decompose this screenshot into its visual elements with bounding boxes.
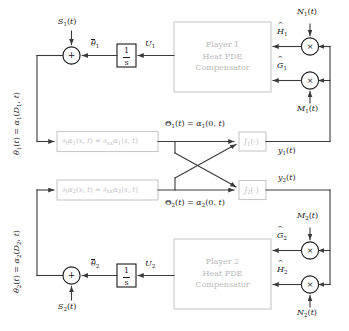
- player2-pde-box-equation: ∂tα2(x, t) = ∂xxα2(x, t): [62, 187, 138, 194]
- player1-pde-equals: =: [95, 137, 103, 145]
- player2-hessian-modulation-label: N2(t): [297, 309, 317, 317]
- player1-integrator-block: 1 s: [117, 47, 136, 67]
- player1-gradient-estimate-label: G1: [277, 62, 287, 70]
- player1-dither-label: S1(t): [58, 18, 76, 26]
- player2-control-label: U2: [145, 260, 155, 268]
- player1-control-label: U1: [145, 40, 155, 48]
- player1-pde-lhs: ∂tα1(x, t): [62, 137, 95, 145]
- player1-box-line2: Heat PDE: [174, 51, 271, 63]
- player1-pde-box-equation: ∂tα1(x, t) = ∂xxα1(x, t): [62, 138, 138, 145]
- player2-hessian-multiplier-symbol: ×: [303, 281, 317, 289]
- player2-pde-rhs: ∂xxα2(x, t): [103, 186, 138, 194]
- player2-box-line3: Compensator: [174, 279, 271, 291]
- player2-dither-label: S2(t): [58, 303, 76, 311]
- player1-sum-junction-sign: +: [64, 51, 79, 60]
- player2-box-line1: Player 2: [174, 256, 271, 268]
- player2-gradient-estimate-label: G2: [277, 232, 287, 240]
- player1-theta-bar-label: θ1: [91, 40, 99, 48]
- player2-hessian-estimate-label: H2: [277, 266, 287, 274]
- player2-integrator-denominator: s: [124, 278, 128, 287]
- player2-measurement-label: y2(t): [278, 174, 296, 182]
- player1-state-output-label: θ1(t) = α1(D1, t): [13, 92, 21, 155]
- player1-integrator-numerator: 1: [124, 46, 129, 55]
- player2-box-line2: Heat PDE: [174, 268, 271, 280]
- player1-hessian-modulation-label: N1(t): [297, 8, 317, 16]
- block-diagram-canvas: Player 1 Heat PDE Compensator 1 s + × × …: [0, 0, 349, 331]
- player2-pde-equals: =: [95, 186, 103, 194]
- player2-cost-block-label: J2(·): [244, 187, 259, 195]
- player2-sum-junction-sign: +: [64, 271, 79, 280]
- player1-box-line3: Compensator: [174, 62, 271, 74]
- player1-box-line1: Player 1: [174, 39, 271, 51]
- player1-cost-block-label: J1(·): [244, 138, 259, 146]
- player2-gradient-modulation-label: M2(t): [297, 212, 318, 220]
- player2-boundary-label: Θ2(t) = α2(0, t): [165, 199, 225, 207]
- player1-pde-rhs: ∂xxα1(x, t): [103, 137, 138, 145]
- player2-integrator-numerator: 1: [124, 266, 129, 275]
- player1-measurement-label: y1(t): [278, 147, 296, 155]
- player1-gradient-modulation-label: M1(t): [297, 105, 318, 113]
- player2-state-output-label: θ2(t) = α2(D2, t): [13, 230, 21, 293]
- player1-boundary-label: Θ1(t) = α1(0, t): [165, 120, 225, 128]
- player2-gradient-multiplier-symbol: ×: [303, 247, 317, 255]
- player1-compensator-box: Player 1 Heat PDE Compensator: [174, 39, 271, 74]
- player2-theta-bar-label: θ2: [91, 260, 99, 268]
- player2-pde-lhs: ∂tα2(x, t): [62, 186, 95, 194]
- player1-integrator-denominator: s: [124, 58, 128, 67]
- player1-hessian-multiplier-symbol: ×: [303, 43, 317, 51]
- player2-integrator-block: 1 s: [117, 267, 136, 287]
- player1-hessian-estimate-label: H1: [277, 28, 287, 36]
- player2-compensator-box: Player 2 Heat PDE Compensator: [174, 256, 271, 291]
- player1-gradient-multiplier-symbol: ×: [303, 77, 317, 85]
